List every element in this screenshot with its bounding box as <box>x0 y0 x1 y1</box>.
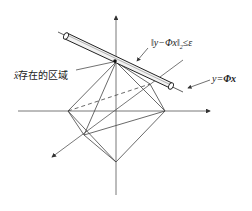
line-eq-lhs: y= <box>212 73 223 84</box>
leader-constraint <box>137 48 148 61</box>
constraint-rel: ≤ε <box>183 37 192 48</box>
solution-point <box>113 59 117 63</box>
leader-region <box>76 62 113 70</box>
line-equation-label: y=Φx <box>212 73 236 84</box>
line-eq-rhs: Φx <box>223 73 236 84</box>
constraint-label: ‖y−Φx‖2≤ε <box>151 37 192 50</box>
feasible-region-label: x̂存在的区域 <box>14 65 68 83</box>
feasible-region-text: 存在的区域 <box>18 70 68 81</box>
leader-line-eq <box>188 80 210 88</box>
constraint-norm: ‖y−Φx‖ <box>151 37 180 48</box>
l1-ball-diagram <box>0 0 252 211</box>
